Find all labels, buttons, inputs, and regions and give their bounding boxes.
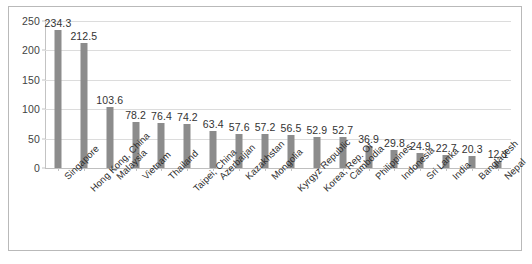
bar-slot: 22.7: [433, 21, 459, 168]
bar-value-label: 57.6: [229, 121, 250, 133]
bar-slot: 103.6: [97, 21, 123, 168]
bar-value-label: 74.2: [177, 111, 198, 123]
x-axis-label: Malaysia: [114, 174, 122, 182]
bar-value-label: 103.6: [96, 94, 123, 106]
x-axis-label: Cambodia: [347, 174, 355, 182]
bar-slot: 52.9: [304, 21, 330, 168]
bar-slot: 74.2: [174, 21, 200, 168]
bar-value-label: 234.3: [45, 17, 72, 29]
bar-value-label: 56.5: [281, 122, 302, 134]
x-axis-label: Mongolia: [269, 174, 277, 182]
x-axis-label: Singapore: [62, 174, 70, 182]
bar[interactable]: [106, 107, 113, 168]
y-tick-label: 200: [22, 44, 40, 56]
x-axis-label: Sri Lanka: [424, 174, 432, 182]
x-axis-label: Thailand: [166, 174, 174, 182]
bar-value-label: 52.7: [332, 124, 353, 136]
bar-value-label: 212.5: [70, 30, 97, 42]
x-axis-label: Indonesia: [399, 174, 407, 182]
x-axis-label: Philippines: [373, 174, 381, 182]
bar-slot: 20.3: [459, 21, 485, 168]
bottom-clipped-caption: [180, 258, 440, 264]
x-axis-label: Vietnam: [140, 174, 148, 182]
y-tick-label: 100: [22, 103, 40, 115]
bar-value-label: 78.2: [125, 109, 146, 121]
bar-slot: 76.4: [149, 21, 175, 168]
x-axis-label: Taipei, China: [191, 186, 199, 194]
bar-slot: 63.4: [200, 21, 226, 168]
x-axis-label: India: [450, 174, 458, 182]
bar-value-label: 76.4: [151, 110, 172, 122]
x-axis-label: Kazakhstan: [243, 174, 251, 182]
bar[interactable]: [54, 30, 61, 168]
y-tick-label: 0: [34, 162, 40, 174]
x-axis-label: Bangladesh: [476, 174, 484, 182]
chart-frame: 050100150200250 234.3212.5103.678.276.47…: [8, 6, 522, 251]
y-tick-label: 50: [28, 133, 40, 145]
x-axis-label: Kyrgyz Republic: [295, 186, 303, 194]
y-tick-label: 250: [22, 15, 40, 27]
x-axis-label: Nepal: [502, 174, 510, 182]
x-axis-category-labels: SingaporeHong Kong, ChinaMalaysiaVietnam…: [45, 170, 511, 250]
bar-value-label: 57.2: [255, 121, 276, 133]
bar-value-label: 52.9: [306, 124, 327, 136]
bar-value-label: 20.3: [462, 143, 483, 155]
x-axis-label: Azerbaijan: [217, 174, 225, 182]
y-tick-label: 150: [22, 74, 40, 86]
x-axis-label: Korea, Rep. Of: [321, 186, 329, 194]
x-axis-label: Hong Kong, China: [88, 186, 96, 194]
bar-slot: 234.3: [45, 21, 71, 168]
bar-value-label: 63.4: [203, 118, 224, 130]
